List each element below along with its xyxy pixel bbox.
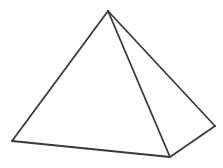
diagram-canvas — [0, 0, 223, 168]
pyramid-diagram — [0, 0, 223, 168]
